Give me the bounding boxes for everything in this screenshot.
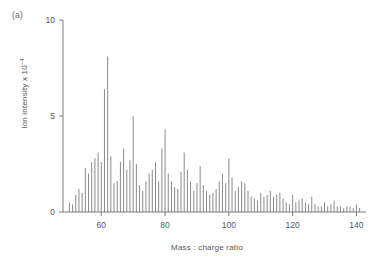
mass-spectrum-figure: (a) 6080100120140 0510 Mass : charge rat… [0, 0, 386, 269]
x-axis-title-text: Mass : charge ratio [171, 243, 243, 252]
y-axis-title-text: Ion intensity x 10 [20, 65, 29, 129]
x-axis-title: Mass : charge ratio [0, 243, 386, 252]
x-axis-ticks: 6080100120140 [97, 212, 364, 230]
y-axis-title: Ion intensity x 10−4 [19, 13, 30, 173]
x-tick-label: 60 [97, 220, 107, 230]
axis-group [63, 20, 366, 212]
y-tick-label: 0 [50, 207, 55, 217]
y-axis-title-exponent: −4 [19, 58, 25, 65]
mass-spectrum-plot: 6080100120140 0510 [0, 0, 386, 269]
y-tick-label: 10 [46, 15, 56, 25]
spectrum-bars [69, 56, 359, 212]
x-tick-label: 140 [349, 220, 363, 230]
x-tick-label: 80 [160, 220, 170, 230]
x-tick-label: 100 [222, 220, 236, 230]
y-tick-label: 5 [50, 111, 55, 121]
x-tick-label: 120 [286, 220, 300, 230]
y-axis-ticks: 0510 [46, 15, 63, 217]
